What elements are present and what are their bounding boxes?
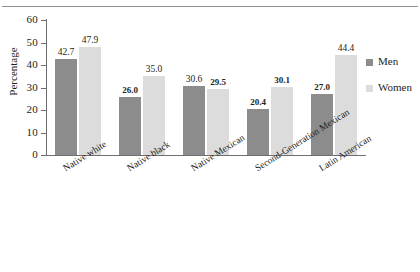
bar-value-label: 26.0 bbox=[118, 85, 142, 95]
bar-value-label: 42.7 bbox=[54, 47, 78, 57]
legend-label: Women bbox=[378, 81, 412, 94]
bar-women bbox=[335, 55, 357, 155]
bar-value-label: 27.0 bbox=[310, 82, 334, 92]
y-axis-tick bbox=[41, 155, 46, 156]
bar-value-label: 30.6 bbox=[182, 74, 206, 84]
bar-value-label: 29.5 bbox=[206, 77, 230, 87]
chart-figure: 0102030405060 Percentage 42.747.926.035.… bbox=[0, 0, 420, 272]
bar-men bbox=[119, 97, 141, 156]
bar-men bbox=[247, 109, 269, 155]
legend-item-women[interactable]: Women bbox=[366, 82, 420, 108]
bar-men bbox=[55, 59, 77, 155]
legend-swatch-icon bbox=[366, 85, 373, 92]
bar-men bbox=[183, 86, 205, 155]
bar-value-label: 44.4 bbox=[334, 43, 358, 53]
plot-area: 0102030405060 Percentage 42.747.926.035.… bbox=[0, 0, 420, 272]
chart-legend: MenWomen bbox=[366, 56, 420, 108]
bar-value-label: 35.0 bbox=[142, 64, 166, 74]
bar-value-label: 30.1 bbox=[270, 75, 294, 85]
bar-value-label: 47.9 bbox=[78, 35, 102, 45]
legend-item-men[interactable]: Men bbox=[366, 56, 420, 82]
bar-value-label: 20.4 bbox=[246, 97, 270, 107]
bar-women bbox=[79, 47, 101, 155]
legend-label: Men bbox=[378, 55, 398, 68]
legend-swatch-icon bbox=[366, 59, 373, 66]
